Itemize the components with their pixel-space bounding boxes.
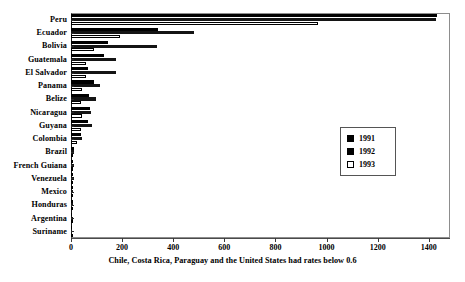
bar-group <box>71 66 450 79</box>
y-axis-tick <box>71 73 74 74</box>
bar-1992 <box>71 45 157 48</box>
bar-group <box>71 92 450 105</box>
y-axis-label: Bolivia <box>0 41 67 50</box>
x-axis-tick <box>71 238 72 242</box>
x-axis-tick-label: 1000 <box>319 243 335 252</box>
y-axis-labels: PeruEcuadorBoliviaGuatemalaEl SalvadorPa… <box>0 13 67 238</box>
y-axis-label: Guyana <box>0 121 67 130</box>
bar-group <box>71 53 450 66</box>
legend-label: 1992 <box>359 148 375 156</box>
bar-1991 <box>71 173 73 176</box>
bar-1993 <box>71 181 73 184</box>
bar-1993 <box>71 141 77 144</box>
y-axis-tick <box>71 231 74 232</box>
y-axis-tick <box>71 99 74 100</box>
y-axis-label: French Guiana <box>0 161 67 170</box>
bar-1991 <box>71 213 72 216</box>
y-axis-tick <box>71 178 74 179</box>
y-axis-label: Venezuela <box>0 174 67 183</box>
x-axis-line <box>71 238 450 239</box>
bar-1992 <box>71 31 194 34</box>
y-axis-tick <box>71 126 74 127</box>
x-axis-tick <box>173 238 174 242</box>
bar-1993 <box>71 35 120 38</box>
x-axis-tick-label: 200 <box>116 243 128 252</box>
bar-1991 <box>71 147 74 150</box>
bar-1993 <box>71 88 82 91</box>
y-axis-label: Mexico <box>0 187 67 196</box>
x-axis-tick <box>327 238 328 242</box>
bar-1993 <box>71 22 318 25</box>
bar-1993 <box>71 207 73 210</box>
legend-item: 1991 <box>347 132 395 145</box>
bar-1991 <box>71 120 88 123</box>
y-axis-tick <box>71 86 74 87</box>
bar-1992 <box>71 18 436 21</box>
chart-caption: Chile, Costa Rica, Paraguay and the Unit… <box>0 256 465 265</box>
bar-1992 <box>71 124 92 127</box>
bar-1992 <box>71 111 91 114</box>
bar-1993 <box>71 234 73 237</box>
bar-1991 <box>71 14 437 17</box>
x-axis-tick-label: 400 <box>167 243 179 252</box>
y-axis-label: Suriname <box>0 227 67 236</box>
bar-1991 <box>71 107 90 110</box>
x-axis-tick <box>275 238 276 242</box>
y-axis-tick <box>71 165 74 166</box>
bar-1993 <box>71 48 94 51</box>
bar-1991 <box>71 133 81 136</box>
x-axis-tick <box>378 238 379 242</box>
y-axis-label: Brazil <box>0 147 67 156</box>
y-axis-label: Peru <box>0 15 67 24</box>
bar-1991 <box>71 160 73 163</box>
bar-1991 <box>71 67 88 70</box>
bar-1993 <box>71 75 86 78</box>
x-axis-tick <box>429 238 430 242</box>
bar-1991 <box>71 80 94 83</box>
x-axis-tick-label: 800 <box>269 243 281 252</box>
bar-group <box>71 13 450 26</box>
bar-1992 <box>71 58 116 61</box>
y-axis-tick <box>71 59 74 60</box>
bar-1992 <box>71 84 100 87</box>
bar-group <box>71 79 450 92</box>
legend-item: 1993 <box>347 158 395 171</box>
bar-1993 <box>71 128 81 131</box>
y-axis-label: Colombia <box>0 134 67 143</box>
y-axis-tick <box>71 218 74 219</box>
bar-group <box>71 225 450 238</box>
bar-chart: PeruEcuadorBoliviaGuatemalaEl SalvadorPa… <box>0 0 465 282</box>
legend-label: 1993 <box>359 161 375 169</box>
y-axis-tick <box>71 139 74 140</box>
bar-groups <box>71 13 450 238</box>
x-axis-tick <box>122 238 123 242</box>
x-axis-tick-label: 600 <box>218 243 230 252</box>
bar-1991 <box>71 200 73 203</box>
x-axis-tick <box>224 238 225 242</box>
bar-1992 <box>71 97 96 100</box>
legend-swatch-icon <box>347 148 354 155</box>
y-axis-label: Nicaragua <box>0 108 67 117</box>
y-axis-tick <box>71 33 74 34</box>
bar-group <box>71 39 450 52</box>
x-axis-tick-label: 1200 <box>370 243 386 252</box>
bar-group <box>71 185 450 198</box>
x-axis-tick-label: 1400 <box>421 243 437 252</box>
x-axis-tick-label: 0 <box>69 243 73 252</box>
bar-group <box>71 198 450 211</box>
bar-1993 <box>71 62 86 65</box>
bar-group <box>71 106 450 119</box>
bar-1993 <box>71 194 73 197</box>
y-axis-label: Argentina <box>0 214 67 223</box>
bar-1991 <box>71 54 104 57</box>
bar-1991 <box>71 41 108 44</box>
y-axis-tick <box>71 152 74 153</box>
bar-1993 <box>71 114 82 117</box>
legend-item: 1992 <box>347 145 395 158</box>
y-axis-label: Honduras <box>0 200 67 209</box>
bar-1993 <box>71 167 73 170</box>
y-axis-tick <box>71 112 74 113</box>
legend-label: 1991 <box>359 135 375 143</box>
y-axis-tick <box>71 20 74 21</box>
chart-legend: 199119921993 <box>340 127 396 176</box>
